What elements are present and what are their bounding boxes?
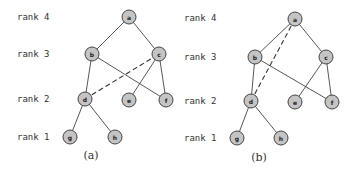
rank-label: rank 2 <box>184 96 217 106</box>
node-label: d <box>249 98 253 105</box>
node-label: b <box>90 51 95 58</box>
node-c: c <box>152 47 166 61</box>
edge-a-b <box>255 19 295 57</box>
node-d: d <box>244 94 258 108</box>
rank-label: rank 4 <box>17 12 50 22</box>
panel-caption: (b) <box>251 151 267 164</box>
node-g: g <box>63 130 77 144</box>
panel-a: rank 4rank 3rank 2rank 1abcdefgh(a) <box>17 10 173 162</box>
node-e: e <box>122 93 136 107</box>
rank-label: rank 3 <box>184 52 217 62</box>
node-label: f <box>331 99 334 106</box>
node-label: a <box>293 16 297 23</box>
rank-label: rank 4 <box>184 13 217 23</box>
node-label: c <box>324 54 328 61</box>
node-b: b <box>248 50 262 64</box>
node-h: h <box>274 131 288 145</box>
node-f: f <box>325 95 339 109</box>
node-d: d <box>78 92 92 106</box>
node-label: b <box>253 54 258 61</box>
node-b: b <box>85 47 99 61</box>
rank-label: rank 2 <box>17 94 50 104</box>
node-label: e <box>293 99 297 106</box>
node-h: h <box>108 130 122 144</box>
node-label: d <box>83 96 87 103</box>
panel-caption: (a) <box>83 149 98 162</box>
rank-label: rank 1 <box>184 133 217 143</box>
edge-c-e <box>295 57 326 102</box>
dashed-edge-d-c <box>85 54 159 99</box>
node-a: a <box>288 12 302 26</box>
node-label: h <box>113 134 117 141</box>
node-label: a <box>127 14 131 21</box>
node-label: g <box>68 134 72 142</box>
node-e: e <box>288 95 302 109</box>
panel-b: rank 4rank 3rank 2rank 1abcdefgh(b) <box>184 12 339 164</box>
node-label: g <box>235 135 239 143</box>
node-label: e <box>127 97 131 104</box>
node-f: f <box>159 93 173 107</box>
rank-diagram: rank 4rank 3rank 2rank 1abcdefgh(a)rank … <box>0 0 357 174</box>
node-label: h <box>279 135 283 142</box>
node-label: c <box>157 51 161 58</box>
node-c: c <box>319 50 333 64</box>
rank-label: rank 1 <box>17 132 50 142</box>
rank-label: rank 3 <box>17 49 50 59</box>
node-label: f <box>165 97 168 104</box>
edge-a-b <box>92 17 129 54</box>
node-g: g <box>230 131 244 145</box>
node-a: a <box>122 10 136 24</box>
